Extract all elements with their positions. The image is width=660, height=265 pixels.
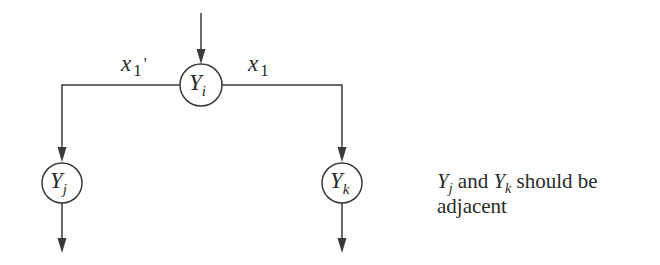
node-yi-sub: i: [202, 83, 206, 99]
note-yj-sub: j: [449, 181, 453, 196]
note-rest: should be: [511, 169, 597, 193]
edge-left-label: x1': [121, 52, 147, 75]
edge-right-var: x: [248, 51, 258, 76]
edge-left-var: x: [121, 51, 131, 76]
edge-right-branch: [222, 85, 347, 162]
note-line-2: adjacent: [437, 195, 598, 217]
edge-right-sub: 1: [260, 61, 269, 80]
note-yk-sub: k: [505, 181, 511, 196]
node-yk-sub: k: [343, 181, 350, 197]
outgoing-arrow-yk: [338, 203, 347, 253]
note-yj-var: Y: [437, 169, 449, 193]
node-yi-var: Y: [189, 70, 202, 95]
node-yk-label: Yk: [330, 169, 349, 192]
node-yk-var: Y: [330, 168, 343, 193]
adjacency-note: Yj and Yk should be adjacent: [437, 170, 598, 217]
note-and: and: [453, 169, 494, 193]
diagram-lines: [0, 0, 660, 265]
edge-left-sub: 1: [133, 61, 142, 80]
diagram-canvas: Yi Yj Yk x1' x1 Yj and Yk should be adja…: [0, 0, 660, 265]
edge-right-label: x1: [248, 52, 269, 75]
note-yk-var: Y: [493, 169, 505, 193]
node-yj-label: Yj: [50, 169, 67, 192]
edge-left-prime: ': [144, 54, 147, 73]
incoming-arrow: [197, 13, 206, 64]
note-line-1: Yj and Yk should be: [437, 170, 598, 195]
node-yi-label: Yi: [189, 71, 206, 94]
edge-left-branch: [58, 85, 181, 162]
node-yj-var: Y: [50, 168, 63, 193]
outgoing-arrow-yj: [58, 203, 67, 253]
node-yj-sub: j: [63, 181, 67, 197]
